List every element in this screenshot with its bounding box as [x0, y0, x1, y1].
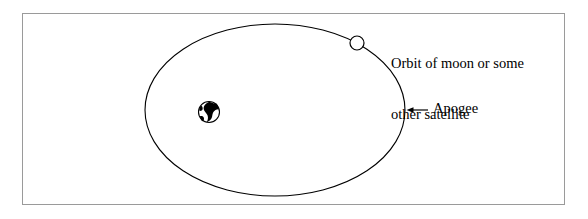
- earth-globe-icon: [199, 102, 220, 123]
- orbit-label-line-1: Orbit of moon or some: [391, 55, 524, 72]
- orbit-label: Orbit of moon or some other satellite: [391, 21, 524, 157]
- apogee-label: Apogee: [433, 100, 478, 117]
- orbit-ellipse: [145, 24, 405, 196]
- satellite-moon-icon: [350, 36, 364, 50]
- figure-root: Orbit of moon or some other satellite Ap…: [0, 0, 588, 219]
